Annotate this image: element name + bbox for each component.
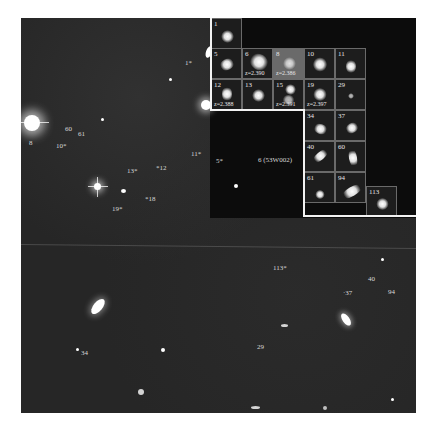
- deep-field-image: 1* 8 60 61 10* 11* 5* 6 (53W002) *12 13*…: [21, 18, 416, 413]
- field-label-11: 11*: [191, 151, 201, 158]
- inset-cell-12: 12z=2.388: [211, 79, 242, 110]
- field-label-10: 10*: [56, 143, 67, 150]
- inset-cell-10: 10: [304, 48, 335, 79]
- field-label-37: ·37: [343, 290, 352, 297]
- field-label-19: 19*: [112, 206, 123, 213]
- inset-cell-15: 15z=2.391: [273, 79, 304, 110]
- inset-cell-94: 94: [335, 172, 366, 203]
- inset-cell-29: 29: [335, 79, 366, 110]
- inset-cell-19: 19z=2.397: [304, 79, 335, 110]
- inset-cell-34: 34: [304, 110, 335, 141]
- field-label-13: 13*: [127, 168, 138, 175]
- inset-cell-40: 40: [304, 141, 335, 172]
- inset-cell-61: 61: [304, 172, 335, 203]
- galaxy: [161, 348, 165, 352]
- galaxy: [121, 189, 126, 193]
- galaxy: [323, 406, 327, 410]
- star-spike: [88, 186, 108, 187]
- inset-cell-60: 60: [335, 141, 366, 172]
- galaxy: [381, 258, 384, 261]
- inset-frame: [303, 215, 416, 217]
- field-label-18: *18: [145, 196, 156, 203]
- field-label-29: 29: [257, 344, 264, 351]
- inset-frame: [210, 109, 304, 111]
- inset-cell-1: 1: [211, 18, 242, 49]
- field-label-1: 1*: [185, 60, 192, 67]
- bright-star: [24, 115, 40, 131]
- galaxy: [251, 406, 260, 409]
- inset-cell-5: 5: [211, 48, 242, 79]
- star-spike: [21, 122, 49, 123]
- bright-galaxy: [89, 297, 107, 317]
- inset-cell-6: 6z=2.390: [242, 48, 273, 79]
- field-label-8: 8: [29, 140, 33, 147]
- bright-galaxy: [339, 312, 353, 327]
- star-spike: [97, 177, 98, 197]
- galaxy: [101, 118, 104, 121]
- galaxy: [76, 348, 79, 351]
- inset-cell-113: 113: [366, 186, 397, 217]
- field-label-113: 113*: [273, 265, 287, 272]
- field-label-12: *12: [156, 165, 167, 172]
- mosaic-seam: [21, 244, 416, 249]
- galaxy: [281, 324, 288, 327]
- field-label-40: 40: [368, 276, 375, 283]
- inset-grid: 1 5 6z=2.390 8z=2.386 10 11 12z=2.388 13…: [211, 18, 416, 218]
- inset-cell-8: 8z=2.386: [273, 48, 304, 79]
- inset-cell-13: 13: [242, 79, 273, 110]
- inset-frame: [303, 109, 305, 217]
- galaxy: [138, 389, 144, 395]
- galaxy: [169, 78, 172, 81]
- field-label-60: 60: [65, 126, 72, 133]
- field-label-34: 34: [81, 350, 88, 357]
- inset-cell-11: 11: [335, 48, 366, 79]
- field-label-94: 94: [388, 289, 395, 296]
- field-label-61: 61: [78, 131, 85, 138]
- inset-frame: [210, 18, 212, 110]
- inset-cell-37: 37: [335, 110, 366, 141]
- galaxy: [391, 398, 394, 401]
